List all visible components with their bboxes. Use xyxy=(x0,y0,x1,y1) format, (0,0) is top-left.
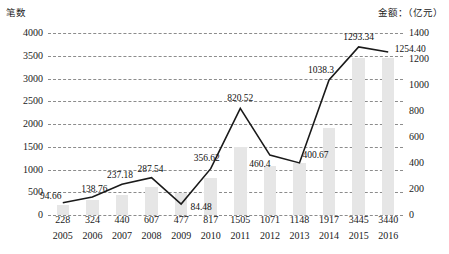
line-point-label: 287.54 xyxy=(137,164,163,174)
left-axis-tick: 4000 xyxy=(23,27,43,38)
line-path xyxy=(63,47,388,204)
left-axis-tick: 2000 xyxy=(23,118,43,129)
right-axis-tick: 800 xyxy=(409,105,424,116)
line-point-label: 84.48 xyxy=(190,202,211,212)
bar-value-label: 1917 xyxy=(319,214,339,225)
category-label: 2006 xyxy=(82,230,102,241)
left-axis-tick: 1500 xyxy=(23,141,43,152)
line-point-label: 94.66 xyxy=(40,191,61,201)
right-axis-tick: 400 xyxy=(409,157,424,168)
bar-value-label: 1148 xyxy=(290,214,310,225)
left-axis-tick: 3000 xyxy=(23,73,43,84)
line-point-label: 460.4 xyxy=(249,159,270,169)
bar-value-label: 1505 xyxy=(230,214,250,225)
right-axis-tick: 1400 xyxy=(409,27,429,38)
right-axis-tick: 1000 xyxy=(409,79,429,90)
bar-value-label: 1071 xyxy=(260,214,280,225)
bar-value-label: 817 xyxy=(203,214,218,225)
right-axis-tick: 600 xyxy=(409,131,424,142)
category-label: 2012 xyxy=(260,230,280,241)
bar-value-label: 607 xyxy=(144,214,159,225)
left-axis-title: 笔数 xyxy=(6,5,26,19)
line-point-label: 1038.3 xyxy=(308,65,334,75)
bar-value-label: 228 xyxy=(55,214,70,225)
category-label: 2011 xyxy=(230,230,250,241)
line-point-label: 356.62 xyxy=(194,153,220,163)
right-axis-tick: 200 xyxy=(409,183,424,194)
bar-value-label: 3440 xyxy=(378,214,398,225)
bar-value-label: 477 xyxy=(174,214,189,225)
bar-value-label: 3445 xyxy=(349,214,369,225)
line-point-label: 1254.40 xyxy=(395,44,426,54)
left-axis-tick: 3500 xyxy=(23,50,43,61)
left-axis-tick: 0 xyxy=(38,209,43,220)
right-axis-tick: 0 xyxy=(409,209,414,220)
category-label: 2008 xyxy=(142,230,162,241)
category-label: 2005 xyxy=(53,230,73,241)
line-point-label: 820.52 xyxy=(227,93,253,103)
line-point-label: 1293.34 xyxy=(343,32,374,42)
right-axis-tick: 1200 xyxy=(409,53,429,64)
left-axis-tick: 2500 xyxy=(23,95,43,106)
right-axis-title: 金额：（亿元） xyxy=(378,5,443,19)
chart-container: 笔数 金额：（亿元） 05001000150020002500300035004… xyxy=(0,0,449,254)
category-label: 2010 xyxy=(201,230,221,241)
category-label: 2009 xyxy=(171,230,191,241)
left-axis-tick: 1000 xyxy=(23,164,43,175)
category-label: 2014 xyxy=(319,230,339,241)
line-point-label: 138.76 xyxy=(81,184,107,194)
category-label: 2013 xyxy=(289,230,309,241)
category-label: 2015 xyxy=(349,230,369,241)
bar-value-label: 440 xyxy=(114,214,129,225)
category-label: 2016 xyxy=(378,230,398,241)
line-point-label: 237.18 xyxy=(107,170,133,180)
bar-value-label: 324 xyxy=(85,214,100,225)
category-label: 2007 xyxy=(112,230,132,241)
line-point-label: 400.67 xyxy=(302,150,328,160)
